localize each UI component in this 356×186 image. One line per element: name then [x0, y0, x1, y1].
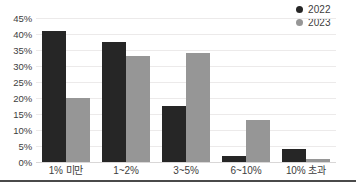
- bar-group: [156, 18, 216, 162]
- bar-2023[interactable]: [126, 56, 150, 162]
- bar-chart: 2022 2023 45%40%35%30%25%20%15%10%5%0% 1…: [0, 0, 356, 186]
- bar-group: [216, 18, 276, 162]
- bar-group: [96, 18, 156, 162]
- y-axis-tick-label: 20%: [0, 93, 32, 104]
- bar-2022[interactable]: [42, 31, 66, 162]
- bar-2022[interactable]: [102, 42, 126, 162]
- y-axis-tick-label: 45%: [0, 13, 32, 24]
- bar-2023[interactable]: [66, 98, 90, 162]
- x-axis-tick-label: 1~2%: [96, 163, 156, 179]
- x-axis-tick-label: 6~10%: [216, 163, 276, 179]
- y-axis-tick-label: 0%: [0, 157, 32, 168]
- y-axis: 45%40%35%30%25%20%15%10%5%0%: [0, 18, 32, 162]
- bar-2023[interactable]: [246, 120, 270, 162]
- bar-2022[interactable]: [282, 149, 306, 162]
- y-axis-tick-label: 5%: [0, 141, 32, 152]
- y-axis-tick-label: 35%: [0, 45, 32, 56]
- bar-2022[interactable]: [162, 106, 186, 162]
- x-axis-tick-label: 1% 미만: [36, 163, 96, 179]
- y-axis-tick-label: 15%: [0, 109, 32, 120]
- bar-group: [36, 18, 96, 162]
- legend-label: 2022: [308, 3, 331, 16]
- bar-2023[interactable]: [186, 53, 210, 162]
- bar-2022[interactable]: [222, 156, 246, 162]
- bottom-divider: [0, 180, 356, 182]
- y-axis-tick-label: 25%: [0, 77, 32, 88]
- legend-marker-dot-icon: [296, 6, 303, 13]
- y-axis-tick-label: 40%: [0, 29, 32, 40]
- plot-area: [36, 18, 336, 162]
- y-axis-tick-label: 10%: [0, 125, 32, 136]
- x-axis-tick-label: 3~5%: [156, 163, 216, 179]
- legend-item-2022[interactable]: 2022: [296, 3, 352, 16]
- x-axis-tick-label: 10% 초과: [276, 163, 336, 179]
- bar-2023[interactable]: [306, 159, 330, 162]
- x-axis: 1% 미만1~2%3~5%6~10%10% 초과: [36, 163, 336, 179]
- bar-group: [276, 18, 336, 162]
- y-axis-tick-label: 30%: [0, 61, 32, 72]
- bar-series-container: [36, 18, 336, 162]
